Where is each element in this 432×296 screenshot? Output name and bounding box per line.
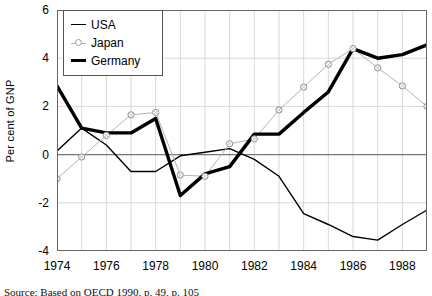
y-tick-label: 4 xyxy=(23,51,49,65)
legend-label-germany: Germany xyxy=(91,54,140,68)
x-tick-label: 1974 xyxy=(34,259,80,273)
thick-line-key-icon xyxy=(70,54,90,68)
circle-marker-line-key-icon xyxy=(70,36,90,50)
y-tick-label: 6 xyxy=(23,3,49,17)
legend-item-usa: USA xyxy=(70,16,156,34)
y-tick-label: -4 xyxy=(23,244,49,258)
legend-item-germany: Germany xyxy=(70,52,156,70)
x-tick-label: 1986 xyxy=(330,259,376,273)
chart-legend: USA Japan Germany xyxy=(63,10,163,76)
x-tick-label: 1980 xyxy=(182,259,228,273)
source-note: Source: Based on OECD 1990, p. 49, p. 10… xyxy=(4,286,432,296)
y-axis-title-text: Per cent of GNP xyxy=(4,79,16,162)
legend-label-japan: Japan xyxy=(91,36,124,50)
x-tick-label: 1984 xyxy=(281,259,327,273)
y-tick-label: -2 xyxy=(23,196,49,210)
x-tick-label: 1978 xyxy=(133,259,179,273)
y-tick-label: 0 xyxy=(23,148,49,162)
thin-line-key-icon xyxy=(70,18,90,32)
chart-figure: Per cent of GNP 6420-2-4 197419761978198… xyxy=(0,0,432,296)
legend-label-usa: USA xyxy=(91,18,116,32)
y-tick-label: 2 xyxy=(23,99,49,113)
legend-item-japan: Japan xyxy=(70,34,156,52)
x-tick-label: 1988 xyxy=(379,259,425,273)
x-tick-label: 1982 xyxy=(231,259,277,273)
x-tick-label: 1976 xyxy=(83,259,129,273)
y-axis-title: Per cent of GNP xyxy=(2,36,18,206)
